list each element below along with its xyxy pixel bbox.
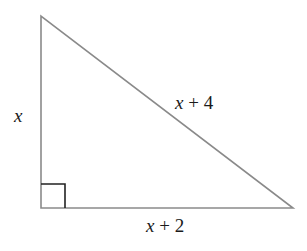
hypotenuse-label: x + 4: [175, 93, 213, 112]
base-expression: + 2: [154, 215, 184, 236]
triangle-canvas: [0, 0, 307, 251]
base-label: x + 2: [146, 216, 184, 235]
left-side-label: x: [14, 106, 22, 125]
hypotenuse-expression: + 4: [183, 92, 213, 113]
left-side-variable: x: [14, 105, 22, 126]
triangle-shape: [41, 16, 293, 208]
right-angle-marker: [41, 184, 65, 208]
right-triangle-figure: x x + 4 x + 2: [0, 0, 307, 251]
